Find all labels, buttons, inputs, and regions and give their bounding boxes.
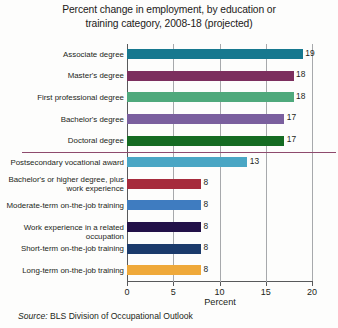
bar [127,244,201,254]
bar-value-label: 13 [250,156,259,166]
source-text: BLS Division of Occupational Outlook [48,311,193,321]
x-tick-label-10: 10 [214,287,224,297]
x-tick-mark-5 [173,282,174,286]
bar [127,157,247,167]
x-tick-label-15: 15 [261,287,271,297]
bar-value-label: 18 [296,69,305,79]
category-label: Short-term on-the-job training [21,244,124,253]
category-label: Long-term on-the-job training [22,266,124,275]
bar-row: 19 [127,44,313,64]
bar-row: 8 [127,260,313,280]
category-label: Doctoral degree [68,136,124,145]
category-label: Bachelor's or higher degree, plus work e… [8,175,124,194]
x-tick-mark-10 [220,282,221,286]
bar-row: 8 [127,239,313,259]
category-label: Postsecondary vocational award [10,158,124,167]
bar-value-label: 17 [287,134,296,144]
x-tick-label-5: 5 [171,287,176,297]
bar [127,136,284,146]
x-axis-title: Percent [127,297,313,307]
bar-row: 18 [127,87,313,107]
bar-row: 8 [127,195,313,215]
plot-area: 19181817171388888 05101520 [127,44,313,282]
bar-row: 18 [127,66,313,86]
category-label: First professional degree [37,93,124,102]
bar-value-label: 8 [204,177,209,187]
bar [127,200,201,210]
x-tick-mark-0 [127,282,128,286]
bar-value-label: 19 [305,48,314,58]
chart-title: Percent change in employment, by educati… [14,3,324,31]
chart-title-line-2: training category, 2008-18 (projected) [14,17,324,31]
bar [127,114,284,124]
bar-value-label: 8 [204,264,209,274]
bar-value-label: 17 [287,112,296,122]
bar-value-label: 18 [296,91,305,101]
bar [127,179,201,189]
x-tick-label-0: 0 [124,287,129,297]
bar [127,49,303,59]
category-label: Work experience in a related occupation [0,223,124,242]
bar-row: 13 [127,152,313,172]
source-label: Source: [18,311,48,321]
x-tick-label-20: 20 [307,287,317,297]
bar-value-label: 8 [204,242,209,252]
category-axis-labels: Associate degreeMaster's degreeFirst pro… [0,44,124,282]
category-label: Associate degree [63,50,124,59]
category-group-divider [22,152,336,153]
bar-value-label: 8 [204,221,209,231]
bar-row: 8 [127,217,313,237]
bar [127,222,201,232]
bar [127,71,294,81]
category-label: Bachelor's degree [61,115,124,124]
bar-value-label: 8 [204,199,209,209]
chart-title-line-1: Percent change in employment, by educati… [14,3,324,17]
x-tick-mark-20 [312,282,313,286]
bar [127,92,294,102]
source-note: Source: BLS Division of Occupational Out… [18,311,193,321]
category-label: Moderate-term on-the-job training [6,201,124,210]
x-tick-mark-15 [266,282,267,286]
bar [127,265,201,275]
bar-row: 17 [127,109,313,129]
bar-row: 17 [127,131,313,151]
bar-row: 8 [127,174,313,194]
category-label: Master's degree [68,71,124,80]
